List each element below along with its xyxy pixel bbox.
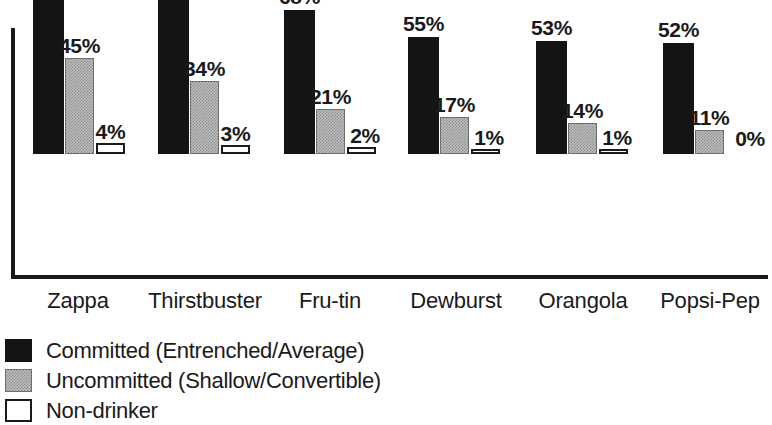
bar-dewburst-nondrinker[interactable]: 1% <box>471 149 500 154</box>
bar-value-label: 1% <box>474 127 504 148</box>
category-label-zappa: Zappa <box>47 288 108 314</box>
x-axis-line <box>11 275 768 279</box>
legend-label-nondrinker: Non-drinker <box>46 400 158 422</box>
bar-value-label: 4% <box>96 121 126 142</box>
bar-value-label: 1% <box>602 127 632 148</box>
plot-area: 83% 45% 4% 77% 34% 3% 68% <box>0 0 772 300</box>
category-label-dewburst: Dewburst <box>410 288 501 314</box>
bar-value-label: 52% <box>658 19 699 40</box>
grouped-bar-chart: 83% 45% 4% 77% 34% 3% 68% <box>0 0 772 425</box>
bar-value-label: 45% <box>59 35 100 56</box>
category-axis-labels: Zappa Thirstbuster Fru-tin Dewburst Oran… <box>0 288 772 322</box>
category-label-thirstbuster: Thirstbuster <box>148 288 262 314</box>
bar-dewburst-uncommitted[interactable]: 17% <box>440 117 469 154</box>
bar-thirstbuster-nondrinker[interactable]: 3% <box>221 145 250 154</box>
bar-value-label: 34% <box>184 58 225 79</box>
bar-popsi-pep-committed[interactable]: 52% <box>663 43 694 154</box>
bar-thirstbuster-uncommitted[interactable]: 34% <box>190 81 219 154</box>
chart-legend: Committed (Entrenched/Average) Uncommitt… <box>5 336 605 425</box>
bar-orangola-committed[interactable]: 53% <box>536 41 567 154</box>
bar-zappa-committed[interactable]: 83% <box>33 0 64 154</box>
black-filled-swatch-icon <box>5 339 32 362</box>
white-outlined-swatch-icon <box>5 399 32 422</box>
bar-value-label: 21% <box>310 86 351 107</box>
bar-value-label: 2% <box>350 125 380 146</box>
legend-label-committed: Committed (Entrenched/Average) <box>46 340 364 362</box>
bar-zappa-nondrinker[interactable]: 4% <box>96 143 125 154</box>
bar-fru-tin-committed[interactable]: 68% <box>284 10 315 154</box>
category-label-orangola: Orangola <box>539 288 628 314</box>
bar-value-label: 3% <box>221 123 251 144</box>
bar-value-label: 14% <box>562 100 603 121</box>
gray-dithered-swatch-icon <box>5 369 32 392</box>
bar-value-label: 53% <box>531 17 572 38</box>
bar-value-label: 11% <box>690 107 730 128</box>
legend-item-nondrinker[interactable]: Non-drinker <box>5 396 605 425</box>
bar-popsi-pep-uncommitted[interactable]: 11% <box>695 130 724 154</box>
bar-value-label: 17% <box>434 94 475 115</box>
bar-value-label: 68% <box>279 0 320 7</box>
bar-orangola-nondrinker[interactable]: 1% <box>599 149 628 154</box>
bar-popsi-pep-nondrinker[interactable]: 0% <box>726 152 755 154</box>
legend-item-committed[interactable]: Committed (Entrenched/Average) <box>5 336 605 365</box>
bar-zappa-uncommitted[interactable]: 45% <box>65 58 94 154</box>
legend-item-uncommitted[interactable]: Uncommitted (Shallow/Convertible) <box>5 366 605 395</box>
category-label-fru-tin: Fru-tin <box>299 288 361 314</box>
bar-fru-tin-uncommitted[interactable]: 21% <box>316 109 345 154</box>
bar-orangola-uncommitted[interactable]: 14% <box>568 123 597 154</box>
legend-label-uncommitted: Uncommitted (Shallow/Convertible) <box>46 370 381 392</box>
bar-value-label: 0% <box>735 128 765 149</box>
category-label-popsi-pep: Popsi-Pep <box>660 288 760 314</box>
y-axis-line <box>11 28 15 279</box>
bar-fru-tin-nondrinker[interactable]: 2% <box>347 147 376 154</box>
bar-value-label: 55% <box>403 13 444 34</box>
